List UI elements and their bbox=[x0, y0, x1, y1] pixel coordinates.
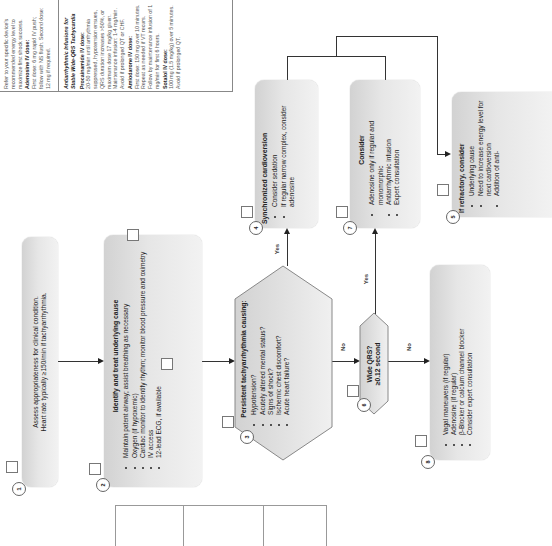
node-7-bullet: Expert consultation bbox=[393, 86, 401, 205]
edge-label-3-no: No bbox=[340, 343, 346, 351]
node-7-title: Consider bbox=[358, 86, 366, 214]
connector-6-7 bbox=[375, 234, 376, 314]
bottom-table bbox=[115, 505, 327, 546]
node-8-number-badge: 8 bbox=[421, 455, 435, 469]
node-3-title: Persistent tachyarrhythmia causing: bbox=[240, 294, 248, 424]
node-1-checkbox[interactable] bbox=[6, 461, 18, 473]
node-8-bullet: Vagal maneuvers (if regular) bbox=[442, 271, 450, 435]
node-5-number-badge: 5 bbox=[446, 210, 460, 224]
connector-merge-up bbox=[336, 36, 337, 56]
table-divider bbox=[183, 506, 184, 546]
node-2-bullet: 12-lead ECG, if available bbox=[155, 245, 163, 458]
amiodarone-text: First dose: 150 mg over 10 minutes. Repe… bbox=[134, 2, 161, 89]
antiarrhythmic-title: Antiarrhythmic Infusions for Stable Wide… bbox=[63, 2, 77, 89]
node-3-bullet: Hypotension? bbox=[250, 294, 258, 415]
connector-to-5-h bbox=[437, 154, 445, 155]
adenosine-text: First dose: 6 mg rapid IV push; follow w… bbox=[31, 2, 51, 89]
sotalol-title: Sotalol IV dose: bbox=[162, 49, 168, 89]
panel-intro: Refer to your specific device's recommen… bbox=[3, 2, 23, 89]
connector-4-merge bbox=[287, 56, 288, 80]
connector-merge-h bbox=[287, 56, 386, 57]
node-5-checkbox[interactable] bbox=[437, 184, 449, 196]
edge-label-6-yes: Yes bbox=[363, 274, 369, 284]
node-7-bullet: Antiarrhythmic infusion bbox=[385, 86, 393, 205]
node-2-checkbox[interactable] bbox=[89, 463, 101, 475]
node-2-title: Identify and treat underlying cause bbox=[112, 245, 120, 467]
connector-3-4 bbox=[287, 234, 288, 266]
edge-label-6-no: No bbox=[406, 343, 412, 351]
node-4-bullet: If regular narrow complex, consider aden… bbox=[280, 86, 296, 207]
node-3-bullet: Ischemic chest discomfort? bbox=[275, 294, 283, 415]
node-1-line-2: Heart rate typically ≥150/min if tachyar… bbox=[40, 292, 48, 431]
node-3-bullet: Signs of shock? bbox=[267, 294, 275, 415]
node-3-number-badge: 3 bbox=[240, 430, 254, 444]
node-6-title: Wide QRS? bbox=[366, 346, 374, 383]
procainamide-title: Procainamide IV dose: bbox=[79, 32, 85, 89]
node-5-bullet: Addition of anti- bbox=[493, 98, 501, 196]
node-4-bullet: Consider sedation bbox=[271, 86, 279, 207]
node-6-checkbox[interactable] bbox=[347, 385, 359, 397]
arrow-icon bbox=[284, 228, 290, 234]
connector-1-2 bbox=[58, 361, 98, 362]
amiodarone-title: Amiodarone IV dose: bbox=[127, 36, 133, 89]
node-7-consider[interactable]: Consider Adenosine only if regular and m… bbox=[350, 80, 420, 228]
node-2-checkbox-mid[interactable] bbox=[161, 358, 173, 370]
node-8-bullet: β-Blocker or calcium channel blocker bbox=[458, 271, 466, 435]
arrow-icon bbox=[372, 228, 378, 234]
edge-label-3-yes: Yes bbox=[274, 244, 280, 254]
node-2-bullet: Cardiac monitor to identify rhythm; moni… bbox=[139, 245, 147, 458]
connector-2-3 bbox=[202, 361, 230, 362]
node-2-bullet: IV access bbox=[147, 245, 155, 458]
node-4-number-badge: 4 bbox=[249, 221, 263, 235]
procainamide-text: 20-50 mg/min until arrhythmia suppressed… bbox=[85, 2, 126, 89]
node-8-bullet: Consider expert consultation bbox=[466, 271, 474, 435]
node-6-number-badge: 6 bbox=[357, 398, 371, 412]
node-5-title: If refractory, consider bbox=[458, 98, 466, 213]
connector-6-8 bbox=[388, 361, 424, 362]
connector-3-6 bbox=[332, 361, 354, 362]
table-divider bbox=[263, 506, 264, 546]
node-2-number-badge: 2 bbox=[96, 478, 110, 492]
node-2-bullet: Maintain patent airway; assist breathing… bbox=[122, 245, 130, 458]
node-7-bullet: Adenosine only if regular and monomorphi… bbox=[368, 86, 384, 205]
adenosine-title: Adenosine IV dose: bbox=[24, 40, 30, 89]
node-8-checkbox[interactable] bbox=[415, 435, 427, 447]
arrow-icon bbox=[445, 151, 451, 157]
connector-to-5 bbox=[437, 36, 438, 154]
node-3-bullet: Acutely altered mental status? bbox=[259, 294, 267, 415]
node-3-bullet: Acute heart failure? bbox=[283, 294, 291, 415]
node-5-bullet: Underlying cause bbox=[468, 98, 476, 196]
connector-7-merge bbox=[385, 56, 386, 80]
node-5-if-refractory[interactable]: If refractory, consider Underlying cause… bbox=[452, 92, 552, 217]
node-3-checkbox[interactable] bbox=[222, 416, 234, 428]
node-4-title: Synchronized cardioversion bbox=[261, 86, 269, 224]
panel-divider bbox=[58, 0, 59, 91]
node-2-bullet: Oxygen (if hypoxemic) bbox=[131, 245, 139, 458]
connector-merge-top bbox=[336, 36, 437, 37]
node-7-number-badge: 7 bbox=[343, 221, 357, 235]
node-1-assess[interactable]: Assess appropriateness for clinical cond… bbox=[22, 237, 58, 487]
node-2-identify-treat[interactable]: Identify and treat underlying cause Main… bbox=[104, 235, 202, 487]
node-1-line-1: Assess appropriateness for clinical cond… bbox=[32, 296, 40, 428]
sotalol-text: 100 mg (1.5 mg/kg) over 5 minutes. Avoid… bbox=[168, 2, 182, 89]
node-4-checkbox[interactable] bbox=[241, 206, 253, 218]
panel-section-adenosine: Refer to your specific device's recommen… bbox=[2, 0, 58, 91]
panel-section-antiarrhythmic: Antiarrhythmic Infusions for Stable Wide… bbox=[61, 0, 231, 91]
node-8-narrow-qrs-options[interactable]: Vagal maneuvers (if regular) Adenosine (… bbox=[430, 265, 490, 460]
node-5-bullet: Need to increase energy level for next c… bbox=[477, 98, 493, 196]
node-7-checkbox[interactable] bbox=[336, 206, 348, 218]
node-4-synchronized-cardioversion[interactable]: Synchronized cardioversion Consider seda… bbox=[255, 80, 318, 228]
node-6-subtitle: ≥0.12 second bbox=[374, 343, 382, 386]
node-1-number-badge: 1 bbox=[12, 482, 26, 496]
node-8-bullet: Adenosine (if regular) bbox=[450, 271, 458, 435]
node-2-checkbox-top[interactable] bbox=[127, 229, 139, 241]
